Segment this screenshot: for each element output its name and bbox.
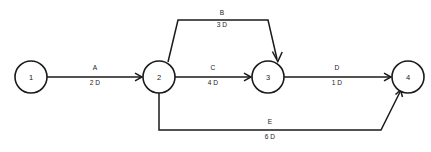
event-node-4: 4 <box>392 61 424 93</box>
activity-b-name: B <box>220 9 225 16</box>
activity-edge-d: D 1 D <box>284 64 391 86</box>
event-node-3: 3 <box>252 61 284 93</box>
activity-a-duration: 2 D <box>90 79 100 86</box>
activity-a-name: A <box>93 64 98 71</box>
activity-edge-b: B 3 D <box>168 9 282 62</box>
activity-edge-e: E 6 D <box>159 90 403 140</box>
activity-d-name: D <box>335 64 340 71</box>
activity-e-line <box>159 92 400 130</box>
activity-edge-a: A 2 D <box>47 64 142 86</box>
event-node-2-label: 2 <box>157 73 161 82</box>
event-node-2: 2 <box>143 61 175 93</box>
activity-b-arrowhead <box>272 52 282 62</box>
network-diagram: A 2 D B 3 D C 4 D D 1 D E <box>0 0 431 152</box>
activity-b-duration: 3 D <box>217 21 227 28</box>
activity-c-name: C <box>211 64 216 71</box>
event-node-4-label: 4 <box>406 73 410 82</box>
activity-edge-c: C 4 D <box>175 64 251 86</box>
activity-e-duration: 6 D <box>265 133 275 140</box>
activity-d-duration: 1 D <box>332 79 342 86</box>
activity-c-duration: 4 D <box>208 79 218 86</box>
event-node-1: 1 <box>15 61 47 93</box>
event-node-3-label: 3 <box>266 73 270 82</box>
network-diagram-canvas: A 2 D B 3 D C 4 D D 1 D E <box>0 0 431 152</box>
event-node-1-label: 1 <box>29 73 33 82</box>
activity-e-name: E <box>268 118 273 125</box>
